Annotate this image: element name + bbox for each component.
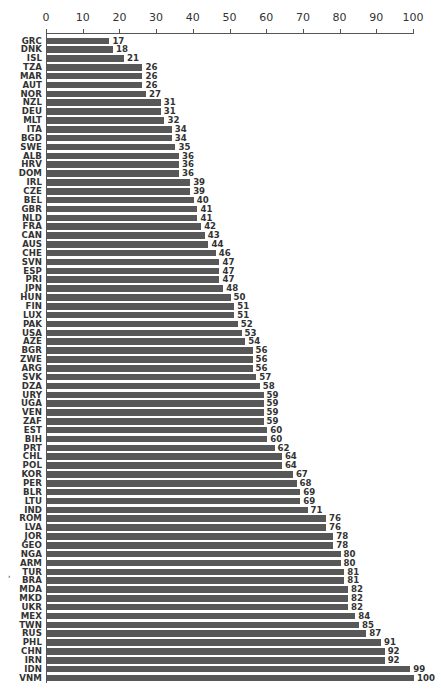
bar	[47, 498, 300, 505]
bar	[47, 639, 381, 646]
bar-row: EST60	[0, 426, 441, 435]
bar	[47, 126, 172, 133]
x-tick-mark	[83, 29, 84, 34]
x-tick-mark	[230, 29, 231, 34]
bar	[47, 374, 256, 381]
bar-row: BGD34	[0, 134, 441, 143]
bar	[47, 206, 197, 213]
bar-row: ITA34	[0, 125, 441, 134]
bar-row: CHE46	[0, 249, 441, 258]
bar	[47, 144, 175, 151]
bar-row: JOR78	[0, 532, 441, 541]
bar	[47, 630, 366, 637]
bar-row: RUS87	[0, 629, 441, 638]
bar	[47, 462, 282, 469]
value-label: 71	[311, 506, 323, 515]
x-tick-label: 70	[296, 11, 310, 24]
bar	[47, 356, 253, 363]
x-tick-label: 90	[369, 11, 383, 24]
bar-row: BLR69	[0, 488, 441, 497]
bar	[47, 489, 300, 496]
bar	[47, 197, 194, 204]
bar	[47, 675, 414, 682]
bar-row: TUR81	[0, 568, 441, 577]
bar-row: IND71	[0, 506, 441, 515]
bar	[47, 250, 216, 257]
bar-row: BRA81	[0, 576, 441, 585]
bar-row: BEL40	[0, 196, 441, 205]
x-tick-mark	[413, 29, 414, 34]
bar	[47, 294, 231, 301]
bar	[47, 73, 142, 80]
bar-row: FIN51	[0, 302, 441, 311]
bar-row: PRI47	[0, 275, 441, 284]
bar	[47, 46, 113, 53]
bar	[47, 153, 179, 160]
x-tick-mark	[46, 29, 47, 34]
bar-row: NOR27	[0, 90, 441, 99]
bar-row: PER68	[0, 479, 441, 488]
bar	[47, 453, 282, 460]
bar	[47, 418, 264, 425]
bar-row: JPN48	[0, 284, 441, 293]
bar	[47, 507, 308, 514]
bar	[47, 577, 344, 584]
horizontal-bar-chart: 0102030405060708090100 GRC17DNK18ISL21TZ…	[0, 0, 441, 692]
bar	[47, 586, 348, 593]
bar-row: BIH60	[0, 435, 441, 444]
value-label: 21	[127, 54, 139, 63]
bar	[47, 117, 164, 124]
bar-row: MKD82	[0, 594, 441, 603]
bar	[47, 427, 267, 434]
bar-row: ROM76	[0, 514, 441, 523]
bar-row: IRL39	[0, 178, 441, 187]
bar	[47, 321, 238, 328]
bar	[47, 595, 348, 602]
bar-row: POL64	[0, 461, 441, 470]
bar	[47, 268, 219, 275]
bar-row: PHL91	[0, 638, 441, 647]
bar	[47, 179, 190, 186]
bar	[47, 560, 341, 567]
bar-row: CHL64	[0, 452, 441, 461]
bar-row: SVK57	[0, 373, 441, 382]
bar	[47, 569, 344, 576]
x-tick-mark	[266, 29, 267, 34]
bar-row: ARG56	[0, 364, 441, 373]
bar	[47, 471, 293, 478]
value-label: 100	[417, 674, 435, 683]
bar-row: ALB36	[0, 152, 441, 161]
bar-row: IDN99	[0, 665, 441, 674]
x-tick-mark	[119, 29, 120, 34]
bar-row: ESP47	[0, 267, 441, 276]
bar-row: FRA42	[0, 222, 441, 231]
bar-row: VNM100	[0, 674, 441, 683]
bar	[47, 64, 142, 71]
bar-row: DEU31	[0, 107, 441, 116]
bar	[47, 613, 355, 620]
bar-row: UKR82	[0, 603, 441, 612]
bar	[47, 383, 260, 390]
bar	[47, 82, 142, 89]
x-tick-mark	[376, 29, 377, 34]
bar-row: DOM36	[0, 169, 441, 178]
x-tick-label: 50	[223, 11, 237, 24]
bar	[47, 409, 264, 416]
category-label: VNM	[0, 674, 42, 683]
bar-row: LVA76	[0, 523, 441, 532]
bar	[47, 666, 410, 673]
value-label: 87	[369, 629, 381, 638]
bar-row: MEX84	[0, 612, 441, 621]
bar-row: GEO78	[0, 541, 441, 550]
bar	[47, 622, 359, 629]
x-tick-mark	[156, 29, 157, 34]
bar	[47, 215, 197, 222]
bar-row: USA53	[0, 329, 441, 338]
bar-row: PAK52	[0, 320, 441, 329]
bar-row: LUX51	[0, 311, 441, 320]
bar	[47, 303, 234, 310]
bar	[47, 241, 208, 248]
bar-row: TZA26	[0, 63, 441, 72]
bar	[47, 338, 245, 345]
stray-mark: ,	[8, 570, 11, 579]
